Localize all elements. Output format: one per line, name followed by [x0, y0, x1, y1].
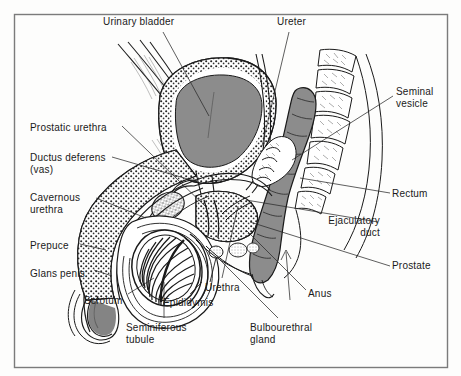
- label-glans-penis: Glans penis: [30, 268, 85, 280]
- label-urethra: Urethra: [205, 282, 240, 294]
- label-seminiferous-tubule: Seminiferous tubule: [126, 322, 187, 345]
- label-prepuce: Prepuce: [30, 240, 69, 252]
- label-anus: Anus: [308, 288, 332, 300]
- label-ureter: Ureter: [277, 16, 306, 28]
- label-prostatic-urethra: Prostatic urethra: [30, 122, 107, 134]
- label-rectum: Rectum: [392, 188, 428, 200]
- page-edge-artifacts: [1, 258, 5, 335]
- label-epididymis: Epididymis: [163, 297, 213, 309]
- label-cavernous-urethra: Cavernous urethra: [30, 192, 80, 215]
- label-ejaculatory-duct: Ejaculatory duct: [310, 215, 380, 238]
- figure-root: Urinary bladder Ureter Seminal vesicle P…: [0, 0, 461, 376]
- label-seminal-vesicle: Seminal vesicle: [396, 86, 434, 109]
- label-ductus-deferens: Ductus deferens (vas): [30, 152, 106, 175]
- label-scrotum: Scrotum: [84, 295, 123, 307]
- label-bulbourethral-gland: Bulbourethral gland: [250, 322, 312, 345]
- label-prostate: Prostate: [392, 260, 431, 272]
- label-urinary-bladder: Urinary bladder: [103, 16, 174, 28]
